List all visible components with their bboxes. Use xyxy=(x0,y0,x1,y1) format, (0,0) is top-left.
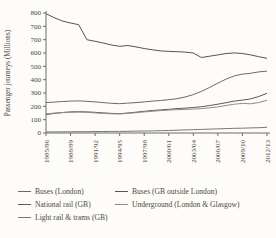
svg-text:300: 300 xyxy=(31,89,42,97)
svg-text:Passenger journeys (Millions): Passenger journeys (Millions) xyxy=(4,29,12,116)
svg-text:700: 700 xyxy=(31,36,42,44)
legend-label: Buses (London) xyxy=(35,185,84,198)
svg-text:400: 400 xyxy=(31,76,42,84)
svg-text:2012/13: 2012/13 xyxy=(264,140,272,163)
svg-text:2000/01: 2000/01 xyxy=(165,140,173,163)
chart-series xyxy=(46,14,267,132)
svg-text:2006/07: 2006/07 xyxy=(214,140,222,163)
chart-axes: 80070070060050040030020010001985/861988/… xyxy=(4,9,272,163)
legend-label: Buses (GB outside London) xyxy=(132,185,217,198)
legend-item: Buses (London) xyxy=(18,185,115,198)
legend-row: National rail (GB) Underground (London &… xyxy=(18,198,276,211)
legend-item: Light rail & trams (GB) xyxy=(18,211,115,224)
svg-text:100: 100 xyxy=(31,116,42,124)
legend-item: Buses (GB outside London) xyxy=(115,185,217,198)
svg-text:600: 600 xyxy=(31,49,42,57)
svg-text:2003/04: 2003/04 xyxy=(190,140,198,163)
legend-label: National rail (GB) xyxy=(35,198,91,211)
legend-line-marker xyxy=(18,204,31,205)
svg-text:0: 0 xyxy=(38,129,42,137)
figure-page: 80070070060050040030020010001985/861988/… xyxy=(0,0,276,238)
svg-text:200: 200 xyxy=(31,103,42,111)
legend-line-marker xyxy=(115,191,128,192)
svg-text:1997/98: 1997/98 xyxy=(141,140,149,163)
legend-row: Buses (London) Buses (GB outside London) xyxy=(18,185,276,198)
legend-label: Underground (London & Glasgow) xyxy=(132,198,240,211)
svg-text:500: 500 xyxy=(31,63,42,71)
svg-text:700: 700 xyxy=(31,23,42,31)
legend-line-marker xyxy=(18,217,31,218)
svg-text:1985/86: 1985/86 xyxy=(43,140,51,163)
svg-text:2009/10: 2009/10 xyxy=(239,140,247,163)
legend-item: National rail (GB) xyxy=(18,198,115,211)
chart-svg: 80070070060050040030020010001985/861988/… xyxy=(0,0,276,185)
svg-text:1994/95: 1994/95 xyxy=(116,140,124,163)
legend-item: Underground (London & Glasgow) xyxy=(115,198,240,211)
svg-text:1991/92: 1991/92 xyxy=(92,140,100,163)
legend-label: Light rail & trams (GB) xyxy=(35,211,108,224)
legend-line-marker xyxy=(115,204,128,205)
legend-line-marker xyxy=(18,191,31,192)
svg-text:800: 800 xyxy=(31,9,42,17)
legend-row: Light rail & trams (GB) xyxy=(18,211,276,224)
chart-legend: Buses (London) Buses (GB outside London)… xyxy=(0,185,276,224)
svg-text:1988/89: 1988/89 xyxy=(67,140,75,163)
